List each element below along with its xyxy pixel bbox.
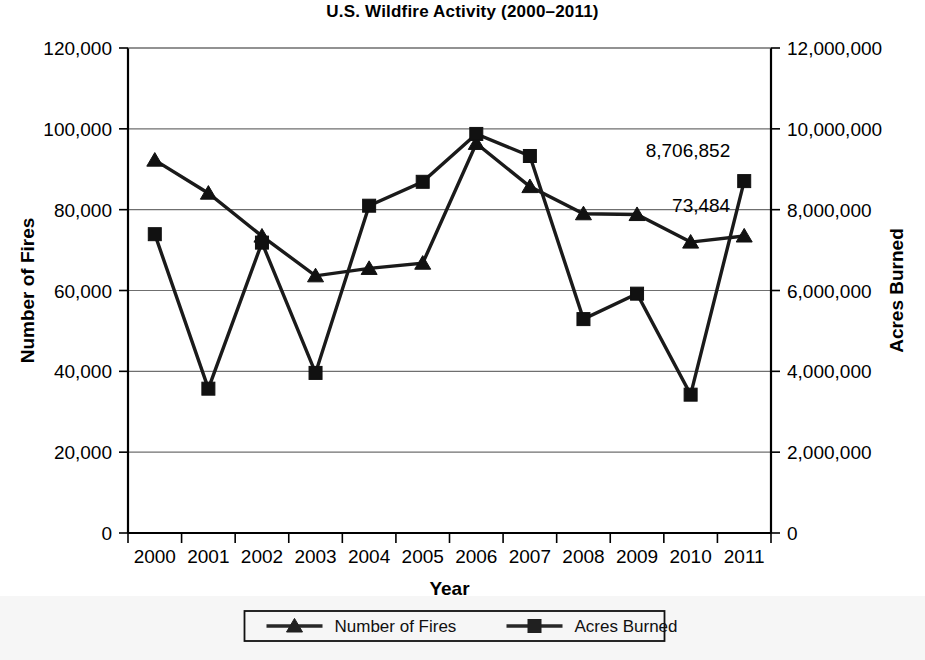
y-axis-tick-label: 80,000 xyxy=(54,200,112,221)
data-point-marker xyxy=(200,186,216,200)
y-axis-tick-label: 0 xyxy=(101,523,112,544)
data-point-marker xyxy=(738,175,751,188)
data-point-marker xyxy=(148,228,161,241)
series-line xyxy=(155,134,744,395)
data-point-annotation: 8,706,852 xyxy=(646,140,731,161)
data-point-annotation: 73,484 xyxy=(672,195,731,216)
y2-axis-tick-label: 2,000,000 xyxy=(787,442,872,463)
data-point-marker xyxy=(202,382,215,395)
data-point-marker xyxy=(470,127,483,140)
y2-axis-tick-label: 12,000,000 xyxy=(787,38,882,59)
data-point-marker xyxy=(523,149,536,162)
data-point-marker xyxy=(363,199,376,212)
x-axis-title: Year xyxy=(429,578,470,599)
data-point-marker xyxy=(309,366,322,379)
y-axis-tick-label: 60,000 xyxy=(54,281,112,302)
x-axis-tick-label: 2000 xyxy=(134,546,176,567)
y2-axis-tick-label: 8,000,000 xyxy=(787,200,872,221)
y2-axis-tick-label: 0 xyxy=(787,523,798,544)
data-point-marker xyxy=(631,287,644,300)
legend-label: Acres Burned xyxy=(575,617,678,636)
chart-canvas: 0020,0002,000,00040,0004,000,00060,0006,… xyxy=(0,0,925,660)
y2-axis-title: Acres Burned xyxy=(886,228,907,353)
data-point-marker xyxy=(255,236,268,249)
x-axis-tick-label: 2004 xyxy=(348,546,391,567)
x-axis-tick-label: 2001 xyxy=(187,546,229,567)
wildfire-chart: U.S. Wildfire Activity (2000–2011) 0020,… xyxy=(0,0,925,660)
data-point-marker xyxy=(577,313,590,326)
x-axis-tick-label: 2009 xyxy=(616,546,658,567)
data-point-marker xyxy=(528,620,541,633)
y2-axis-tick-label: 4,000,000 xyxy=(787,361,872,382)
y-axis-title: Number of Fires xyxy=(17,218,38,364)
data-point-marker xyxy=(684,388,697,401)
legend-label: Number of Fires xyxy=(335,617,457,636)
series-acres-burned xyxy=(148,127,750,401)
y-axis-tick-label: 100,000 xyxy=(43,119,112,140)
y-axis-tick-label: 20,000 xyxy=(54,442,112,463)
x-axis-tick-label: 2011 xyxy=(724,546,765,567)
x-axis-tick-label: 2007 xyxy=(509,546,551,567)
x-axis-tick-label: 2006 xyxy=(455,546,497,567)
x-axis-tick-label: 2005 xyxy=(402,546,444,567)
y-axis-tick-label: 40,000 xyxy=(54,361,112,382)
x-axis-tick-label: 2008 xyxy=(562,546,604,567)
y-axis-tick-label: 120,000 xyxy=(43,38,112,59)
x-axis-tick-label: 2003 xyxy=(294,546,336,567)
y2-axis-tick-label: 10,000,000 xyxy=(787,119,882,140)
x-axis-tick-label: 2010 xyxy=(669,546,711,567)
x-axis-tick-label: 2002 xyxy=(241,546,283,567)
y2-axis-tick-label: 6,000,000 xyxy=(787,281,872,302)
data-point-marker xyxy=(147,153,163,167)
data-point-marker xyxy=(416,175,429,188)
